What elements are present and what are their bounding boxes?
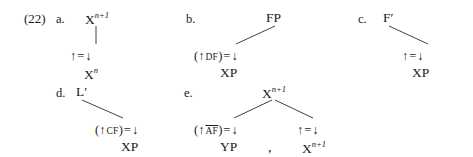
node-e-daughter-1: YP — [220, 140, 237, 154]
down-arrow-icon: ↓ — [312, 123, 318, 137]
branch-e-right — [275, 100, 313, 118]
annotation-b-1: (↑DF)=↓ — [194, 50, 238, 63]
node-d-root: L′ — [76, 85, 87, 99]
feature-label-df: DF — [204, 52, 218, 62]
node-c-daughter-1: XP — [412, 66, 429, 80]
down-arrow-icon: ↓ — [231, 123, 237, 137]
node-b-root-base: FP — [266, 10, 281, 25]
branch-d-diagonal — [82, 100, 123, 118]
item-letter-a: a. — [56, 13, 65, 26]
node-e-root: Xn+1 — [262, 85, 286, 100]
node-c-root: F′ — [383, 11, 393, 25]
node-c-daughter-1-base: XP — [412, 65, 429, 80]
node-e-daughter-2: Xn+1 — [302, 140, 326, 155]
node-a-root: Xn+1 — [85, 11, 109, 26]
prime-mark: ′ — [391, 10, 394, 25]
item-letter-d: d. — [56, 87, 65, 100]
annotation-a-1: ↑=↓ — [70, 50, 92, 63]
node-a-daughter-1-base: X — [84, 67, 94, 82]
equals-sign: = — [76, 49, 85, 63]
example-number: (22) — [24, 12, 46, 25]
node-e-root-base: X — [262, 86, 272, 101]
node-e-daughter-2-superscript: n+1 — [312, 139, 326, 149]
equals-sign: = — [123, 123, 132, 137]
item-letter-c: c. — [358, 13, 367, 26]
annotation-e-2: ↑=↓ — [297, 124, 319, 137]
node-b-root: FP — [266, 11, 281, 25]
node-c-root-base: F — [383, 10, 391, 25]
item-letter-e: e. — [184, 87, 193, 100]
equals-sign: = — [303, 123, 312, 137]
down-arrow-icon: ↓ — [417, 49, 423, 63]
node-d-root-base: L — [76, 84, 84, 99]
annotation-c-1: ↑=↓ — [402, 50, 424, 63]
node-b-daughter-1-base: XP — [220, 65, 237, 80]
node-a-daughter-1: Xn — [84, 66, 98, 81]
equals-sign: = — [408, 49, 417, 63]
down-arrow-icon: ↓ — [85, 49, 91, 63]
feature-label-af-overlined: AF — [204, 126, 218, 136]
branch-c-diagonal — [389, 26, 428, 44]
down-arrow-icon: ↓ — [132, 123, 138, 137]
node-b-daughter-1: XP — [220, 66, 237, 80]
node-a-root-base: X — [85, 12, 95, 27]
branch-b-diagonal — [236, 26, 275, 44]
node-e-daughter-2-base: X — [302, 141, 312, 156]
node-d-daughter-1-base: XP — [121, 139, 138, 154]
item-letter-b: b. — [186, 13, 195, 26]
node-d-daughter-1: XP — [121, 140, 138, 154]
branch-e-left — [234, 100, 272, 118]
node-e-daughter-1-base: YP — [220, 139, 237, 154]
annotation-d-1: (↑CF)=↓ — [95, 124, 138, 137]
down-arrow-icon: ↓ — [231, 49, 237, 63]
node-e-root-superscript: n+1 — [272, 84, 286, 94]
prime-mark: ′ — [84, 84, 87, 99]
example-figure: (22) a. Xn+1 ↑=↓ Xn b. FP (↑DF)=↓ XP c. … — [0, 0, 473, 157]
node-a-root-superscript: n+1 — [95, 10, 109, 20]
daughter-separator-comma: , — [268, 141, 272, 155]
node-a-daughter-1-superscript: n — [94, 65, 98, 75]
feature-label-cf: CF — [105, 126, 118, 136]
annotation-e-1: (↑AF)=↓ — [194, 124, 238, 137]
